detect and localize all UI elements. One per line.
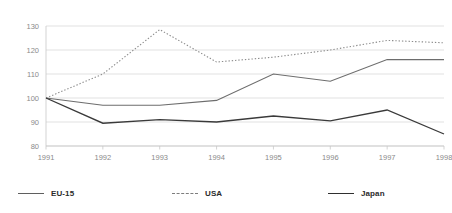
- legend-item-usa[interactable]: USA: [142, 189, 296, 198]
- legend-item-eu-15[interactable]: EU-15: [0, 189, 142, 198]
- legend-label-usa: USA: [205, 189, 222, 198]
- y-gridlines: [46, 26, 444, 146]
- x-tick-label: 1995: [265, 153, 282, 162]
- y-tick-label: 90: [31, 118, 39, 127]
- legend-line-icon-eu-15: [18, 189, 44, 197]
- y-axis-labels: 8090100110120130: [26, 22, 39, 151]
- x-tick-label: 1998: [436, 153, 452, 162]
- chart-canvas: 8090100110120130 19911992199319941995199…: [0, 0, 452, 175]
- y-tick-label: 80: [31, 142, 39, 151]
- legend-label-eu-15: EU-15: [51, 189, 74, 198]
- y-tick-label: 110: [27, 70, 39, 79]
- y-tick-label: 100: [26, 94, 39, 103]
- plot-area: 8090100110120130 19911992199319941995199…: [0, 0, 452, 175]
- legend-item-japan[interactable]: Japan: [296, 189, 452, 198]
- line-chart: 8090100110120130 19911992199319941995199…: [0, 0, 452, 213]
- x-axis-labels: 19911992199319941995199619971998: [38, 153, 452, 162]
- x-tick-label: 1993: [151, 153, 168, 162]
- legend-items: EU-15 USA Japan: [0, 189, 452, 198]
- x-axis-ticks: [46, 146, 444, 150]
- x-tick-label: 1997: [379, 153, 396, 162]
- x-tick-label: 1996: [322, 153, 339, 162]
- series-line-japan: [46, 98, 444, 134]
- legend-label-japan: Japan: [361, 189, 385, 198]
- x-tick-label: 1991: [38, 153, 55, 162]
- chart-legend: EU-15 USA Japan: [0, 178, 452, 208]
- series-lines: [46, 30, 444, 134]
- x-tick-label: 1992: [95, 153, 112, 162]
- legend-line-icon-japan: [328, 189, 354, 197]
- x-tick-label: 1994: [208, 153, 225, 162]
- y-tick-label: 120: [26, 46, 39, 55]
- legend-line-icon-usa: [172, 189, 198, 197]
- y-tick-label: 130: [26, 22, 39, 31]
